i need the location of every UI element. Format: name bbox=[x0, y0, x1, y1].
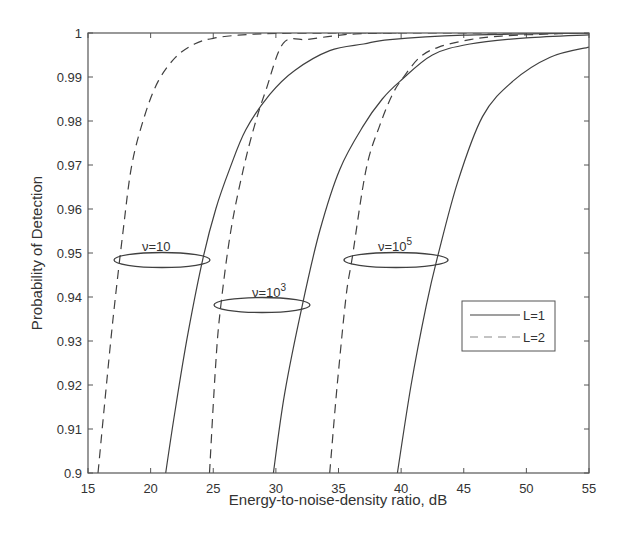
annotation-nu-10: ν=10 bbox=[114, 239, 210, 268]
ellipse-marker bbox=[114, 253, 210, 268]
annotation-label: ν=105 bbox=[378, 236, 413, 254]
x-tick-label: 15 bbox=[81, 481, 95, 496]
legend: L=1 L=2 bbox=[462, 301, 555, 351]
x-tick-label: 25 bbox=[206, 481, 220, 496]
y-tick-label: 0.99 bbox=[57, 70, 82, 85]
y-tick-label: 1 bbox=[75, 26, 82, 41]
y-tick-label: 0.96 bbox=[57, 202, 82, 217]
y-tick-label: 0.93 bbox=[57, 334, 82, 349]
y-tick-label: 0.95 bbox=[57, 246, 82, 261]
y-tick-label: 0.94 bbox=[57, 290, 82, 305]
axis-ticks: 1520253035404550550.90.910.920.930.940.9… bbox=[57, 26, 597, 496]
y-tick-label: 0.98 bbox=[57, 114, 82, 129]
x-tick-label: 20 bbox=[143, 481, 157, 496]
x-tick-label: 45 bbox=[457, 481, 471, 496]
x-axis-title: Energy-to-noise-density ratio, dB bbox=[229, 491, 447, 508]
annotation-nu-10e5: ν=105 bbox=[344, 236, 448, 268]
legend-label-l2: L=2 bbox=[523, 330, 545, 345]
x-tick-label: 50 bbox=[519, 481, 533, 496]
y-tick-label: 0.92 bbox=[57, 378, 82, 393]
ellipse-marker bbox=[344, 253, 448, 268]
annotation-label: ν=103 bbox=[252, 282, 287, 300]
annotation-label: ν=10 bbox=[142, 239, 171, 254]
y-axis-title: Probability of Detection bbox=[28, 176, 45, 330]
x-tick-label: 55 bbox=[582, 481, 596, 496]
detection-probability-chart: 1520253035404550550.90.910.920.930.940.9… bbox=[0, 0, 622, 545]
curve-l1 bbox=[397, 47, 589, 473]
y-tick-label: 0.97 bbox=[57, 158, 82, 173]
annotation-nu-10e3: ν=103 bbox=[214, 282, 310, 313]
y-tick-label: 0.9 bbox=[64, 466, 82, 481]
y-tick-label: 0.91 bbox=[57, 422, 82, 437]
legend-label-l1: L=1 bbox=[523, 308, 545, 323]
